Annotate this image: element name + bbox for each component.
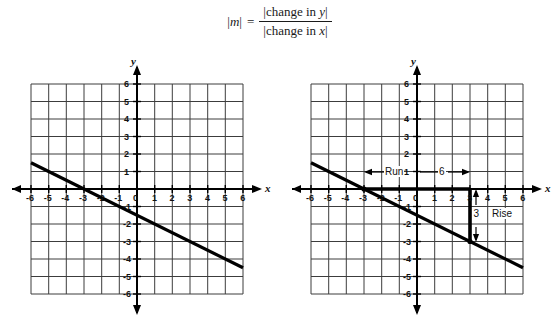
axes [12, 65, 262, 315]
y-tick-5: 5 [404, 98, 409, 107]
left-graph: -6 -5 -4 -3 -2 -1 0 1 2 3 4 5 6 6 5 4 3 … [0, 55, 279, 324]
y-tick-5: 5 [124, 98, 129, 107]
formula-lhs-variable: m [230, 14, 239, 29]
x-tick--5: -5 [324, 194, 332, 203]
x-tick--4: -4 [341, 194, 349, 203]
x-tick-5: 5 [503, 194, 508, 203]
rise-arrow-down [473, 234, 479, 242]
y-tick-4: 4 [124, 115, 129, 124]
formula-fraction: |change in y||change in x| [259, 4, 331, 39]
y-tick-6: 6 [124, 80, 129, 89]
x-axis-label: x [545, 182, 551, 194]
x-tick--2: -2 [377, 194, 385, 203]
y-tick--4: -4 [123, 255, 131, 264]
y-tick-1: 1 [124, 168, 129, 177]
right-graph: -6 -5 -4 -3 -2 -1 0 1 2 3 4 5 6 6 5 4 3 … [280, 55, 559, 324]
y-tick--6: -6 [123, 290, 131, 299]
y-tick--1: -1 [123, 203, 131, 212]
y-tick--5: -5 [403, 273, 411, 282]
slope-formula: |m|=|change in y||change in x| [0, 4, 559, 39]
x-tick--4: -4 [61, 194, 69, 203]
y-tick--4: -4 [403, 255, 411, 264]
x-tick--6: -6 [26, 194, 34, 203]
rise-value: 3 [473, 208, 481, 219]
point-marker-rise-end [467, 239, 472, 244]
x-tick--3: -3 [79, 194, 87, 203]
y-axis-label: y [131, 55, 136, 67]
x-axis-label: x [265, 182, 271, 194]
y-tick-2: 2 [404, 150, 409, 159]
y-tick-4: 4 [404, 115, 409, 124]
x-tick--1: -1 [394, 194, 402, 203]
run-label: Run [384, 166, 404, 177]
formula-equals: = [247, 14, 259, 30]
x-tick-4: 4 [205, 194, 210, 203]
y-tick--2: -2 [403, 220, 411, 229]
x-tick-1: 1 [432, 194, 437, 203]
x-tick-2: 2 [450, 194, 455, 203]
x-tick-5: 5 [223, 194, 228, 203]
point-marker-run-start [361, 186, 366, 191]
y-tick--3: -3 [403, 238, 411, 247]
x-tick-2: 2 [170, 194, 175, 203]
formula-lhs: |m| [227, 14, 247, 30]
x-tick-1: 1 [152, 194, 157, 203]
rise-arrow-up [473, 189, 479, 197]
x-tick-origin: 0 [133, 194, 138, 203]
x-tick--1: -1 [114, 194, 122, 203]
y-tick-6: 6 [404, 80, 409, 89]
x-tick-origin: 0 [413, 194, 418, 203]
y-tick--1: -1 [403, 203, 411, 212]
y-tick--6: -6 [403, 290, 411, 299]
rise-label: Rise [491, 208, 513, 219]
x-tick-3: 3 [187, 194, 192, 203]
formula-numerator: |change in y| [259, 4, 331, 22]
right-graph-svg [280, 55, 559, 324]
x-tick-6: 6 [520, 194, 525, 203]
run-value: 6 [438, 166, 446, 177]
y-tick-2: 2 [124, 150, 129, 159]
y-tick--3: -3 [123, 238, 131, 247]
x-tick--5: -5 [44, 194, 52, 203]
y-tick-3: 3 [404, 133, 409, 142]
left-graph-plot: -6 -5 -4 -3 -2 -1 0 1 2 3 4 5 6 6 5 4 3 … [0, 55, 279, 324]
y-tick-1: 1 [404, 168, 409, 177]
x-tick--3: -3 [359, 194, 367, 203]
run-arrow-left [364, 169, 372, 175]
x-tick--6: -6 [306, 194, 314, 203]
right-graph-plot: -6 -5 -4 -3 -2 -1 0 1 2 3 4 5 6 6 5 4 3 … [280, 55, 559, 324]
x-tick--2: -2 [97, 194, 105, 203]
y-tick--5: -5 [123, 273, 131, 282]
formula-denominator: |change in x| [259, 22, 331, 39]
y-axis-label: y [411, 55, 416, 67]
left-graph-svg [0, 55, 279, 324]
run-arrow-right [462, 169, 470, 175]
y-tick-3: 3 [124, 133, 129, 142]
x-tick-4: 4 [485, 194, 490, 203]
x-tick-3: 3 [467, 194, 472, 203]
y-tick--2: -2 [123, 220, 131, 229]
x-tick-6: 6 [240, 194, 245, 203]
